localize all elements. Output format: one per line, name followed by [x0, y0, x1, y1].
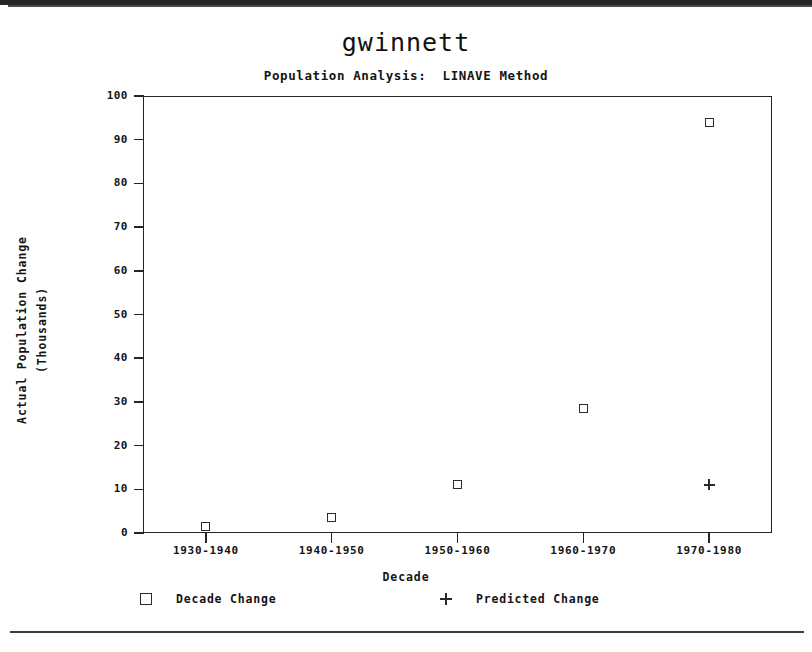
y-axis-tick-label: 90	[84, 133, 128, 147]
data-point-square-marker	[453, 480, 462, 489]
y-axis-tick-label: 60	[84, 264, 128, 278]
y-axis-title: Actual Population Change (Thousands)	[12, 180, 52, 480]
x-axis-tick	[331, 533, 333, 543]
y-axis-tick-label: 40	[84, 351, 128, 365]
x-axis-tick-label: 1950-1960	[393, 544, 523, 557]
legend-entry-decade-change: Decade Change	[140, 590, 276, 608]
y-axis-tick-label-text: 100	[88, 89, 128, 102]
y-axis-title-line1: Actual Population Change	[12, 180, 32, 480]
chart-subtitle: Population Analysis: LINAVE Method	[0, 68, 812, 83]
y-axis-tick-label-text: 80	[88, 176, 128, 189]
y-axis-tick-label-text: 20	[88, 439, 128, 452]
plot-area	[143, 96, 772, 533]
chart-title: gwinnett	[0, 28, 812, 57]
chart-legend: Decade Change Predicted Change	[0, 590, 812, 612]
y-axis-tick-label: 100	[84, 89, 128, 103]
data-point-square-marker	[705, 118, 714, 127]
y-axis-title-line2: (Thousands)	[32, 180, 52, 480]
data-point-square-marker	[201, 522, 210, 531]
y-axis-tick-label-text: 40	[88, 351, 128, 364]
y-axis-tick-label-text: 60	[88, 264, 128, 277]
y-axis-tick-label-text: 0	[88, 526, 128, 539]
y-axis-tick-label-text: 30	[88, 395, 128, 408]
y-axis-tick-label: 50	[84, 308, 128, 322]
x-axis-tick	[205, 533, 207, 543]
y-axis-tick-label-text: 50	[88, 308, 128, 321]
x-axis-tick-label: 1930-1940	[141, 544, 271, 557]
x-axis-tick	[583, 533, 585, 543]
y-axis-tick-label-text: 10	[88, 482, 128, 495]
x-axis-tick	[457, 533, 459, 543]
legend-label-predicted-change: Predicted Change	[476, 592, 600, 606]
y-axis-tick-label: 80	[84, 176, 128, 190]
x-axis-tick	[708, 533, 710, 543]
x-axis-tick-label: 1970-1980	[644, 544, 774, 557]
data-point-plus-marker	[704, 479, 715, 490]
y-axis-tick-label-text: 90	[88, 133, 128, 146]
y-axis-tick-label: 10	[84, 482, 128, 496]
y-axis-tick-label: 0	[84, 526, 128, 540]
y-axis-tick-label: 30	[84, 395, 128, 409]
y-axis-tick-label: 20	[84, 439, 128, 453]
legend-label-decade-change: Decade Change	[176, 592, 276, 606]
x-axis-tick-label: 1960-1970	[518, 544, 648, 557]
data-point-square-marker	[579, 404, 588, 413]
legend-entry-predicted-change: Predicted Change	[440, 590, 600, 608]
square-marker-icon	[140, 593, 152, 605]
y-axis-tick-label: 70	[84, 220, 128, 234]
data-point-square-marker	[327, 513, 336, 522]
plus-marker-icon	[440, 593, 452, 605]
x-axis-title: Decade	[0, 570, 812, 584]
x-axis-tick-label: 1940-1950	[267, 544, 397, 557]
y-axis-tick-label-text: 70	[88, 220, 128, 233]
scan-artifact-top-rule	[8, 5, 812, 7]
scan-artifact-bottom-rule	[10, 631, 804, 633]
